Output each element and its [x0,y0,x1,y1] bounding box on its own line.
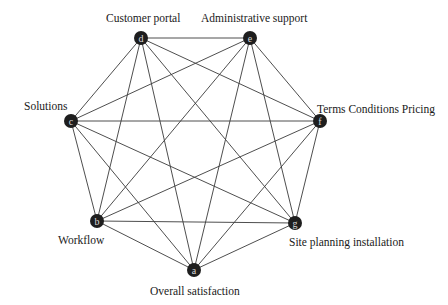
graph-canvas: abcdefg [0,0,448,305]
node-letter: e [248,33,253,44]
label-terms-conditions-pricing: Terms Conditions Pricing [317,104,435,116]
label-administrative-support: Administrative support [201,13,307,25]
node-e: e [243,31,257,45]
edge-a-g [194,223,295,270]
node-b: b [90,214,104,228]
edge-b-g [97,221,295,223]
node-d: d [134,31,148,45]
edge-b-f [97,121,320,221]
node-a: a [187,263,201,277]
edge-layer [71,38,320,270]
edge-c-g [71,121,295,223]
label-workflow: Workflow [58,235,104,247]
label-customer-portal: Customer portal [106,13,180,25]
label-solutions: Solutions [24,101,67,113]
node-f: f [313,114,327,128]
edge-c-e [71,38,250,121]
node-letter: b [95,216,100,227]
edge-b-e [97,38,250,221]
node-letter: g [293,218,298,229]
edge-d-f [141,38,320,121]
edge-d-g [141,38,295,223]
node-g: g [288,216,302,230]
label-overall-satisfaction: Overall satisfaction [150,286,240,298]
edge-a-e [194,38,250,270]
edge-c-d [71,38,141,121]
edge-a-d [141,38,194,270]
node-c: c [64,114,78,128]
node-letter: c [69,116,74,127]
edge-a-b [97,221,194,270]
node-letter: a [192,265,197,276]
edge-b-d [97,38,141,221]
edge-a-c [71,121,194,270]
edge-b-c [71,121,97,221]
label-site-planning-installation: Site planning installation [289,237,404,249]
node-letter: d [139,33,144,44]
